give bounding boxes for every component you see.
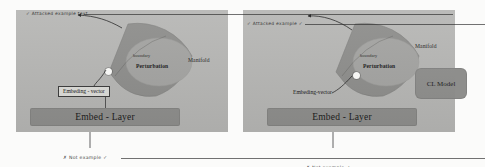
cl-model-box: CL Model [415,68,467,99]
label-boundary-left: boundary [133,53,150,58]
caption-top-left: ✓ Attacked example text [26,11,485,16]
embedding-vector-callout-left: Embeding - vector [58,86,110,97]
connector-callout-to-bar-left [105,96,106,108]
figure-root: boundary Perturbation Manifold Embeding … [0,0,485,167]
label-perturbation-left: Perturbation [136,63,168,69]
label-manifold-left: Manifold [188,57,210,63]
label-perturbation-right: Perturbation [363,63,395,69]
embedding-point-marker-left [105,68,112,75]
embedding-point-marker-right [353,72,360,79]
label-boundary-right: boundary [360,53,377,58]
embedding-vector-callout-right: Embeding-vector [293,89,332,95]
caption-bottom-right: ✗ Not example ✓ [306,165,485,167]
embed-layer-bar-right: Embed - Layer [267,108,417,126]
caption-top-right: ✓ Attacked example ✓ [247,21,485,26]
diagram-panel-left: boundary Perturbation Manifold Embeding … [16,10,228,132]
label-manifold-right: Manifold [415,43,437,49]
diagram-panel-right: boundary Perturbation Manifold Embeding-… [243,10,455,132]
embed-layer-bar-left: Embed - Layer [30,108,180,126]
caption-bottom-left: ✗ Not example ✓ [63,155,485,160]
